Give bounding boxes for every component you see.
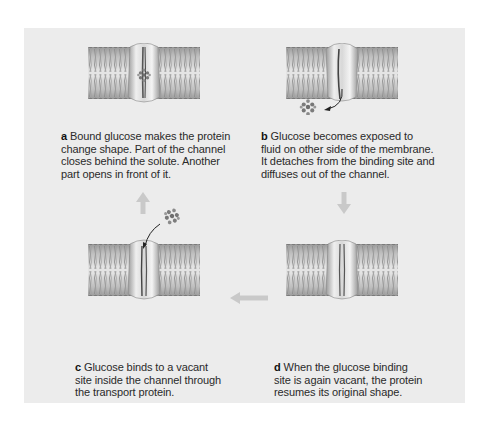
step-c: c Glucose binds to a vacant site inside … [24, 218, 244, 403]
caption-c: c Glucose binds to a vacant site inside … [75, 361, 240, 399]
caption-line: It detaches from the binding site and [261, 155, 435, 167]
caption-a: a Bound glucose makes the protein change… [61, 130, 241, 180]
step-letter-d: d [274, 361, 281, 373]
caption-line: When the glucose binding [284, 361, 408, 373]
glucose-molecule-icon [161, 206, 182, 227]
step-letter-c: c [75, 361, 81, 373]
caption-line: part opens in front of it. [61, 168, 171, 180]
step-letter-a: a [61, 130, 67, 142]
membrane-illustration-b [286, 43, 398, 115]
caption-line: resumes its original shape. [274, 386, 402, 398]
diagram-panel: a Bound glucose makes the protein change… [24, 28, 465, 403]
caption-line: Bound glucose makes the protein [70, 130, 230, 142]
step-a: a Bound glucose makes the protein change… [24, 28, 244, 213]
caption-line: site is again vacant, the protein [274, 374, 422, 386]
step-b: b Glucose becomes exposed to fluid on ot… [244, 28, 465, 213]
caption-line: fluid on other side of the membrane. [261, 143, 434, 155]
caption-line: diffuses out of the channel. [261, 168, 389, 180]
caption-line: change shape. Part of the channel [61, 143, 225, 155]
caption-line: Glucose becomes exposed to [271, 130, 413, 142]
caption-b: b Glucose becomes exposed to fluid on ot… [261, 130, 461, 180]
membrane-illustration-d [286, 240, 398, 302]
glucose-molecule-icon [300, 99, 317, 115]
step-letter-b: b [261, 130, 268, 142]
caption-line: Glucose binds to a vacant [84, 361, 208, 373]
membrane-illustration-a [88, 43, 200, 103]
caption-line: closes behind the solute. Another [61, 155, 220, 167]
caption-d: d When the glucose binding site is again… [274, 361, 454, 399]
caption-line: site inside the channel through [75, 374, 221, 386]
step-d: d When the glucose binding site is again… [244, 218, 465, 403]
caption-line: the transport protein. [75, 386, 174, 398]
membrane-illustration-c [88, 202, 200, 312]
arrow-down-icon [337, 192, 351, 214]
